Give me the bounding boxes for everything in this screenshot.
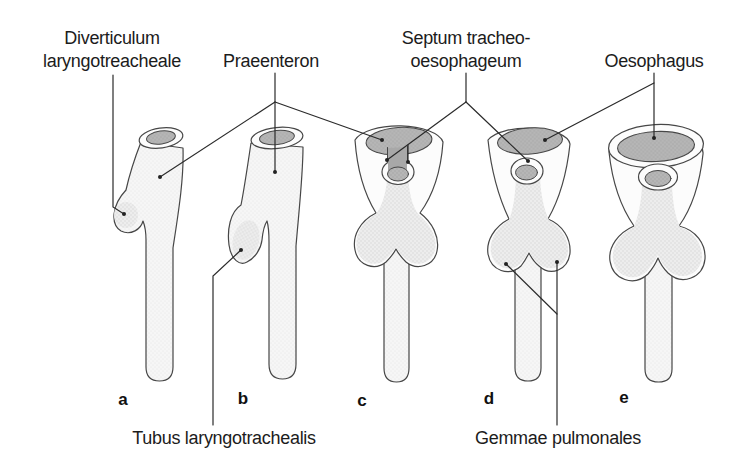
stage-letter-c: c	[357, 391, 366, 411]
stage-letter-e: e	[619, 388, 628, 408]
stage-a-tube-body	[114, 142, 183, 381]
label-diverticulum-line1: Diverticulum	[43, 27, 181, 50]
label-septum-tracheo-oesophageum: Septum tracheo- oesophageum	[402, 27, 531, 73]
stage-a-illustration	[114, 125, 184, 381]
label-oesophagus: Oesophagus	[604, 50, 703, 73]
stage-letter-d: d	[484, 389, 494, 409]
label-gemmae-pulmonales: Gemmae pulmonales	[475, 427, 641, 450]
diverticulum-pouch-shade	[114, 202, 138, 228]
stage-e-illustration	[607, 122, 705, 382]
stage-letter-a: a	[118, 390, 127, 410]
stage-letter-b: b	[238, 389, 248, 409]
figure-canvas: Diverticulum laryngotreacheale Praeenter…	[0, 0, 747, 469]
label-diverticulum-laryngotreacheale: Diverticulum laryngotreacheale	[43, 27, 181, 73]
label-praeenteron: Praeenteron	[223, 50, 319, 73]
leader-tubus	[213, 250, 241, 425]
stage-e-trachea-lumen	[645, 171, 671, 187]
label-diverticulum-line2: laryngotreacheale	[43, 50, 181, 73]
label-septum-line2: oesophageum	[402, 50, 531, 73]
label-septum-line1: Septum tracheo-	[402, 27, 531, 50]
stage-c-trachea-lumen	[388, 167, 409, 181]
leader-diverticulum	[113, 75, 124, 214]
stage-b-tube-body	[228, 143, 303, 379]
stage-d-illustration	[488, 126, 570, 381]
stage-c-illustration	[354, 125, 443, 382]
stage-d-trachea-lumen	[516, 165, 538, 180]
label-tubus-laryngotrachealis: Tubus laryngotrachealis	[132, 427, 316, 450]
stage-c-oesophagus-tube	[384, 245, 409, 382]
